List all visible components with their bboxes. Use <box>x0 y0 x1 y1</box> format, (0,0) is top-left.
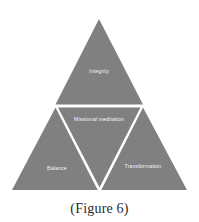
figure-container: Integrity Missional meditation Balance T… <box>0 0 199 222</box>
segment-top-integrity <box>56 19 144 105</box>
figure-caption: (Figure 6) <box>0 196 199 222</box>
triangle-diagram: Integrity Missional meditation Balance T… <box>0 0 199 196</box>
triangle-graphic <box>0 0 199 196</box>
